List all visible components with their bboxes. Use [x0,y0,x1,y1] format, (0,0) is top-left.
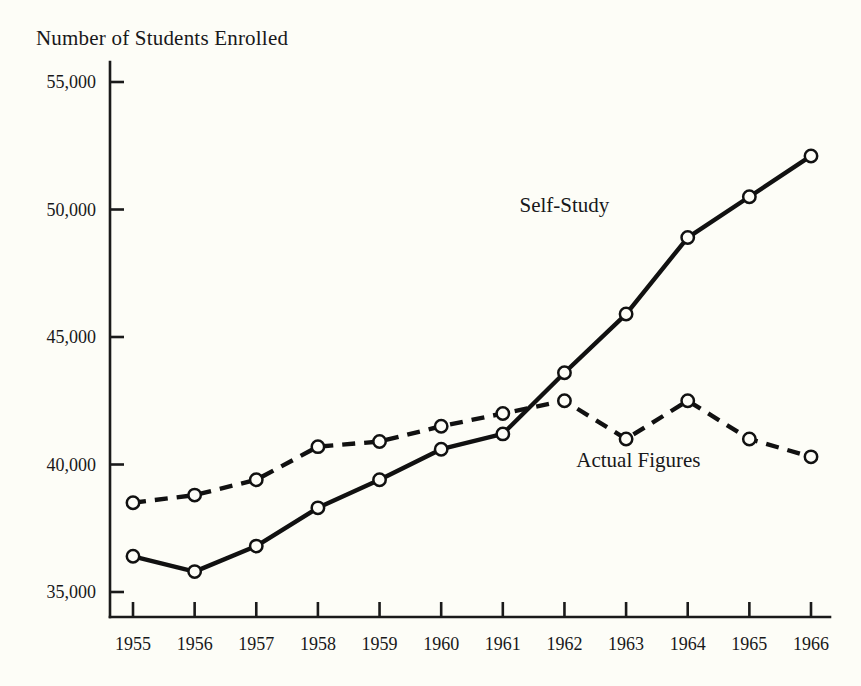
data-point-marker [558,367,570,379]
x-tick-label: 1955 [115,634,151,654]
y-tick-label: 45,000 [47,327,97,347]
chart-root: Number of Students Enrolled 35,00040,000… [0,0,861,686]
data-point-marker [497,407,509,419]
data-point-marker [435,443,447,455]
data-point-marker [497,428,509,440]
series-markers [127,150,817,578]
y-axis-tick-labels: 35,00040,00045,00050,00055,000 [47,72,97,602]
y-tick-label: 55,000 [47,72,97,92]
x-tick-label: 1963 [608,634,644,654]
x-axis-tick-labels: 1955195619571958195919601961196219631964… [115,634,829,654]
data-point-marker [620,308,632,320]
line-chart: 35,00040,00045,00050,00055,000 195519561… [0,0,861,686]
data-point-marker [312,440,324,452]
data-point-marker [127,497,139,509]
data-point-marker [373,435,385,447]
x-tick-label: 1956 [177,634,213,654]
data-point-marker [312,502,324,514]
x-tick-label: 1964 [670,634,706,654]
data-point-marker [805,451,817,463]
x-axis-ticks [133,602,811,617]
data-point-marker [250,540,262,552]
series-line-actual-figures [133,401,811,503]
data-point-marker [620,433,632,445]
data-point-marker [435,420,447,432]
data-point-marker [188,489,200,501]
x-tick-label: 1965 [731,634,767,654]
data-point-marker [805,150,817,162]
data-point-marker [743,191,755,203]
y-tick-label: 35,000 [47,582,97,602]
x-tick-label: 1958 [300,634,336,654]
x-tick-label: 1960 [423,634,459,654]
y-tick-label: 40,000 [47,455,97,475]
x-tick-label: 1961 [485,634,521,654]
x-tick-label: 1962 [546,634,582,654]
data-point-marker [558,395,570,407]
data-point-marker [127,550,139,562]
data-point-marker [682,231,694,243]
data-point-marker [250,474,262,486]
series-lines [133,156,811,572]
series-annotations: Self-StudyActual Figures [520,193,701,472]
x-tick-label: 1966 [793,634,829,654]
x-tick-label: 1959 [362,634,398,654]
y-axis-ticks [110,82,124,592]
series-line-self-study [133,156,811,572]
data-point-marker [188,565,200,577]
data-point-marker [743,433,755,445]
x-tick-label: 1957 [238,634,274,654]
data-point-marker [682,395,694,407]
series-annotation: Self-Study [520,193,610,217]
series-annotation: Actual Figures [576,448,700,472]
y-tick-label: 50,000 [47,200,97,220]
data-point-marker [373,474,385,486]
